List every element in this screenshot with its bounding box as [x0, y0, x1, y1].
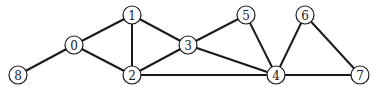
node-5: 5 — [237, 6, 255, 24]
node-4: 4 — [267, 66, 285, 84]
nodes-group: 012345678 — [9, 6, 369, 84]
node-3: 3 — [179, 36, 197, 54]
node-label: 6 — [301, 9, 309, 23]
node-7: 7 — [351, 66, 369, 84]
node-1: 1 — [123, 6, 141, 24]
edge-3-5 — [188, 15, 246, 45]
edge-0-2 — [74, 45, 132, 75]
node-label: 3 — [184, 39, 192, 53]
node-8: 8 — [9, 66, 27, 84]
node-label: 8 — [14, 69, 22, 83]
node-label: 7 — [356, 69, 364, 83]
edge-6-7 — [305, 15, 360, 75]
node-6: 6 — [296, 6, 314, 24]
node-label: 1 — [128, 9, 136, 23]
node-label: 0 — [70, 39, 78, 53]
graph-diagram: 012345678 — [0, 0, 377, 87]
edge-0-1 — [74, 15, 132, 45]
node-label: 4 — [272, 69, 280, 83]
edge-4-6 — [276, 15, 305, 75]
node-0: 0 — [65, 36, 83, 54]
node-label: 5 — [242, 9, 250, 23]
node-label: 2 — [128, 69, 136, 83]
node-2: 2 — [123, 66, 141, 84]
